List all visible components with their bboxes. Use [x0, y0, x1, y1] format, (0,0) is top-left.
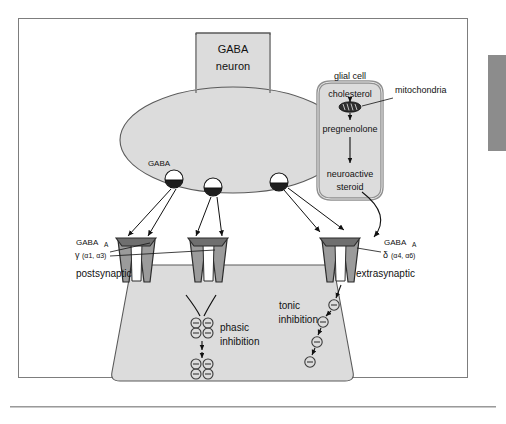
extrasynaptic-label-leader — [357, 248, 381, 252]
glial-cell-title: glial cell — [334, 71, 366, 81]
extrasynaptic-location-label: extrasynaptic — [356, 268, 415, 279]
gaba-neuron — [120, 33, 346, 193]
gaba-signalling-diagram: GABA neuron glial cell cholesterol mitoc… — [0, 0, 506, 424]
glial-step-pregnenolone: pregnenolone — [322, 124, 377, 134]
receptor-extrasynaptic — [320, 238, 360, 282]
receptor-postsynaptic-2 — [188, 238, 228, 282]
figure-stage: GABA neuron glial cell cholesterol mitoc… — [0, 0, 506, 424]
extrasynaptic-alpha-subunits: (α4, α6) — [391, 252, 415, 260]
extrasynaptic-subunit-glyph: δ — [383, 250, 388, 260]
glial-step-cholesterol: cholesterol — [328, 89, 372, 99]
extrasynaptic-receptor-subscript: A — [412, 241, 417, 248]
neuron-label-line1: GABA — [218, 43, 249, 55]
postsynaptic-location-label: postsynaptic — [76, 268, 132, 279]
synaptic-subunit-glyph: γ — [75, 250, 80, 260]
vesicle-label: GABA — [148, 159, 171, 168]
phasic-inhibition-line2: inhibition — [220, 336, 259, 347]
glial-step-neuroactive-line1: neuroactive — [327, 169, 374, 179]
extrasynaptic-receptor-name: GABA — [384, 238, 407, 247]
mitochondria-icon — [339, 102, 361, 112]
neuron-label-line2: neuron — [216, 60, 250, 72]
tonic-inhibition-line1: tonic — [279, 300, 300, 311]
phasic-inhibition-line1: phasic — [220, 322, 249, 333]
synaptic-receptor-name: GABA — [76, 238, 99, 247]
glial-step-neuroactive-line2: steroid — [336, 182, 363, 192]
synaptic-receptor-subscript: A — [104, 241, 109, 248]
mitochondria-label: mitochondria — [395, 85, 447, 95]
tonic-inhibition-line2: inhibition — [279, 314, 318, 325]
release-arrows — [128, 188, 344, 236]
synaptic-alpha-subunits: (α1, α3) — [82, 252, 106, 260]
